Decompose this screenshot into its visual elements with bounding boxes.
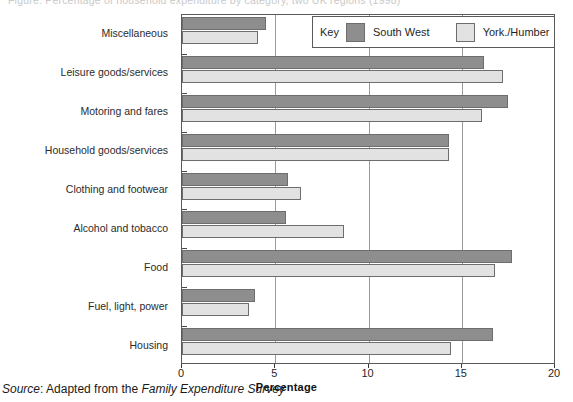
bar-south-west bbox=[182, 173, 288, 186]
plot-area bbox=[181, 14, 555, 364]
x-axis: 05101520 bbox=[181, 364, 555, 380]
bar-york-humber bbox=[182, 303, 249, 316]
bar-york-humber bbox=[182, 225, 344, 238]
bar-york-humber bbox=[182, 109, 482, 122]
category-label: Leisure goods/services bbox=[61, 66, 168, 78]
bar-south-west bbox=[182, 211, 286, 224]
legend-swatch-south-west bbox=[346, 23, 365, 42]
bar-york-humber bbox=[182, 31, 258, 44]
bar-york-humber bbox=[182, 187, 301, 200]
bar-group bbox=[182, 326, 554, 365]
bar-york-humber bbox=[182, 342, 451, 355]
legend-label-york-humber: York./Humber bbox=[483, 26, 550, 38]
legend-label-south-west: South West bbox=[373, 26, 430, 38]
bar-south-west bbox=[182, 56, 484, 69]
bar-group bbox=[182, 132, 554, 171]
category-label: Alcohol and tobacco bbox=[73, 222, 168, 234]
category-label: Miscellaneous bbox=[101, 27, 168, 39]
legend-swatch-york-humber bbox=[456, 23, 475, 42]
legend: Key South West York./Humber bbox=[312, 16, 555, 48]
x-tick-label-0: 0 bbox=[178, 367, 184, 379]
chart-title-strip: Figure: Percentage of household expendit… bbox=[0, 0, 573, 9]
bar-south-west bbox=[182, 17, 266, 30]
category-label: Housing bbox=[129, 339, 168, 351]
source-prefix: : Adapted from the bbox=[40, 382, 141, 396]
bar-south-west bbox=[182, 134, 449, 147]
bar-south-west bbox=[182, 250, 512, 263]
x-tick-label-20: 20 bbox=[548, 367, 560, 379]
bar-york-humber bbox=[182, 148, 449, 161]
category-label: Clothing and footwear bbox=[66, 183, 168, 195]
source-note: Source: Adapted from the Family Expendit… bbox=[2, 382, 285, 396]
category-label: Motoring and fares bbox=[80, 105, 168, 117]
source-lead: Source bbox=[2, 382, 40, 396]
bar-group bbox=[182, 93, 554, 132]
bar-york-humber bbox=[182, 70, 503, 83]
x-tick-label-5: 5 bbox=[271, 367, 277, 379]
legend-key-label: Key bbox=[320, 26, 339, 38]
category-axis-labels: MiscellaneousLeisure goods/servicesMotor… bbox=[0, 14, 176, 364]
bar-south-west bbox=[182, 95, 508, 108]
bar-york-humber bbox=[182, 264, 495, 277]
source-publication: Family Expenditure Survey bbox=[141, 382, 284, 396]
bar-group bbox=[182, 171, 554, 210]
category-label: Household goods/services bbox=[45, 144, 168, 156]
bar-group bbox=[182, 248, 554, 287]
bar-south-west bbox=[182, 289, 255, 302]
x-tick-label-10: 10 bbox=[361, 367, 373, 379]
bar-group bbox=[182, 209, 554, 248]
bar-group bbox=[182, 54, 554, 93]
category-label: Food bbox=[144, 261, 168, 273]
bar-south-west bbox=[182, 328, 493, 341]
bar-group bbox=[182, 287, 554, 326]
x-tick-label-15: 15 bbox=[455, 367, 467, 379]
category-label: Fuel, light, power bbox=[88, 300, 168, 312]
page-title: Figure: Percentage of household expendit… bbox=[8, 0, 400, 6]
